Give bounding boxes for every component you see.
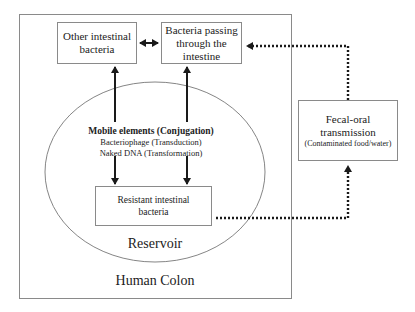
node-resistant-intestinal-bacteria: Resistant intestinal bacteria [95, 186, 212, 226]
node-other-intestinal-bacteria: Other intestinal bacteria [57, 22, 137, 64]
node-detail: (Contaminated food/water) [305, 139, 392, 149]
node-label: Bacteria passing [165, 24, 237, 37]
node-label: Fecal-oral [326, 113, 371, 126]
node-label: through the [176, 37, 226, 50]
node-fecal-oral-transmission: Fecal-oral transmission (Contaminated fo… [298, 100, 398, 161]
reservoir-ellipse [45, 82, 265, 262]
transfer-mechanisms: Mobile elements (Conjugation) Bacterioph… [85, 125, 217, 159]
node-label: bacteria [138, 206, 168, 218]
mechanism-item: Bacteriophage (Transduction) [85, 137, 217, 148]
dotted-arrow-to-passing-bacteria [247, 46, 348, 100]
node-label: intestine [183, 50, 220, 63]
node-bacteria-passing-intestine: Bacteria passing through the intestine [161, 22, 242, 64]
human-colon-label: Human Colon [95, 273, 215, 289]
mechanism-item: Naked DNA (Transformation) [85, 148, 217, 159]
node-label: transmission [320, 126, 376, 139]
node-label: Resistant intestinal [117, 194, 189, 206]
reservoir-label: Reservoir [110, 236, 200, 252]
node-label: bacteria [80, 43, 115, 56]
dotted-arrow-to-fecal-oral [216, 166, 348, 218]
node-label: Other intestinal [63, 30, 131, 43]
mechanisms-heading: Mobile elements (Conjugation) [85, 125, 217, 137]
